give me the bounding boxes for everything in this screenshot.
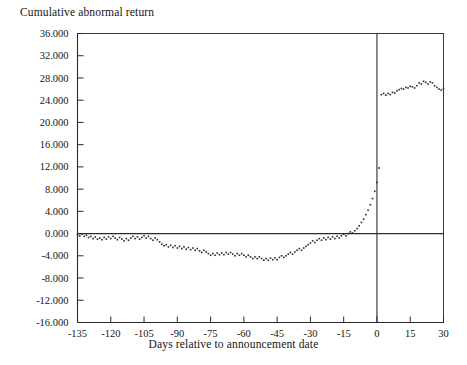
data-point [123, 240, 125, 242]
data-point [179, 246, 181, 248]
data-point [117, 239, 119, 241]
data-point [372, 198, 374, 200]
x-tick-label: 30 [438, 328, 449, 339]
data-point [163, 245, 165, 247]
data-point [423, 81, 425, 83]
data-point [152, 239, 154, 241]
data-point [310, 242, 312, 244]
data-point [347, 233, 349, 235]
data-point [183, 246, 185, 248]
data-point [170, 244, 172, 246]
data-point [181, 248, 183, 250]
data-point [345, 235, 347, 237]
data-point [272, 259, 274, 261]
data-point [228, 253, 230, 255]
x-axis-label: Days relative to announcement date [0, 338, 467, 350]
data-point [188, 247, 190, 249]
data-point [225, 252, 227, 254]
data-point [279, 257, 281, 259]
data-point [421, 83, 423, 85]
data-point [137, 236, 139, 238]
y-tick-label: -12.000 [36, 295, 68, 306]
data-point [414, 87, 416, 89]
data-point [363, 218, 365, 220]
data-point [112, 236, 114, 238]
y-tick-label: 8.000 [45, 184, 69, 195]
data-point [159, 241, 161, 243]
data-point [405, 87, 407, 89]
data-point [394, 92, 396, 94]
x-tick-label: -45 [270, 328, 284, 339]
data-point [185, 248, 187, 250]
data-point [150, 238, 152, 240]
data-point [294, 251, 296, 253]
data-point [361, 222, 363, 224]
data-point [321, 239, 323, 241]
data-point [248, 254, 250, 256]
data-point [190, 249, 192, 251]
data-point [387, 93, 389, 95]
y-tick-label: 28.000 [40, 73, 69, 84]
x-tick-label: 0 [374, 328, 379, 339]
axis-layer [78, 34, 444, 323]
data-point [108, 236, 110, 238]
y-tick-label: 12.000 [40, 161, 69, 172]
data-point [267, 259, 269, 261]
data-point [334, 238, 336, 240]
data-point [327, 237, 329, 239]
data-point [208, 253, 210, 255]
data-point [90, 236, 92, 238]
x-tick-label: -30 [303, 328, 317, 339]
data-point [196, 248, 198, 250]
y-tick-label: 20.000 [40, 117, 69, 128]
data-point [81, 233, 83, 235]
data-point [436, 87, 438, 89]
data-point [356, 228, 358, 230]
data-point [296, 249, 298, 251]
data-point [398, 89, 400, 91]
chart-figure: Cumulative abnormal return -16.000-12.00… [0, 0, 467, 365]
data-point [265, 258, 267, 260]
data-point [134, 238, 136, 240]
data-point [312, 240, 314, 242]
data-point [250, 256, 252, 258]
data-point [110, 238, 112, 240]
data-point [381, 94, 383, 96]
data-point [254, 256, 256, 258]
y-tick-label: -4.000 [41, 250, 68, 261]
data-point [285, 255, 287, 257]
data-point [350, 231, 352, 233]
y-tick-label: 32.000 [40, 50, 69, 61]
data-point [263, 259, 265, 261]
data-point [292, 253, 294, 255]
data-point [154, 237, 156, 239]
data-point [128, 239, 130, 241]
data-point [101, 239, 103, 241]
data-point [374, 191, 376, 193]
data-point [385, 94, 387, 96]
data-point [121, 238, 123, 240]
data-point [358, 225, 360, 227]
data-point [192, 247, 194, 249]
data-point [241, 253, 243, 255]
data-point [221, 252, 223, 254]
data-point [281, 255, 283, 257]
data-point [270, 257, 272, 259]
data-point [114, 237, 116, 239]
y-tick-label: -8.000 [41, 273, 68, 284]
data-point [94, 236, 96, 238]
data-point [376, 182, 378, 184]
data-point [83, 236, 85, 238]
data-point [434, 85, 436, 87]
x-tick-label: -60 [237, 328, 251, 339]
data-point [299, 248, 301, 250]
data-point [392, 92, 394, 94]
tick-label-layer: -16.000-12.000-8.000-4.0000.0004.0008.00… [36, 28, 449, 338]
data-point [165, 244, 167, 246]
data-point [92, 238, 94, 240]
data-point [239, 254, 241, 256]
x-tick-label: -90 [170, 328, 184, 339]
x-tick-label: -15 [337, 328, 351, 339]
data-point [106, 238, 108, 240]
data-point [88, 237, 90, 239]
